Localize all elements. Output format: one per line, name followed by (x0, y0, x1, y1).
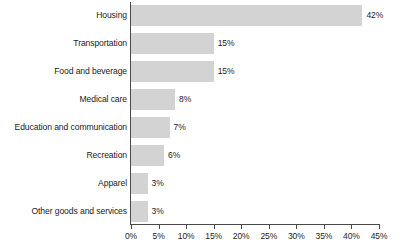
x-tick-label: 15% (205, 231, 222, 241)
x-tick-mark (241, 225, 242, 229)
bar-value-label: 8% (179, 89, 191, 110)
x-tick-mark (351, 225, 352, 229)
category-label: Apparel (98, 173, 127, 194)
bar[interactable] (131, 145, 164, 166)
category-label: Food and beverage (54, 61, 127, 82)
bar[interactable] (131, 5, 362, 26)
x-tick-mark (324, 225, 325, 229)
bar-value-label: 15% (218, 61, 235, 82)
x-tick-mark (269, 225, 270, 229)
bar[interactable] (131, 61, 214, 82)
x-tick-label: 35% (316, 231, 333, 241)
category-label: Other goods and services (31, 201, 127, 222)
bar-value-label: 3% (152, 173, 164, 194)
bar-row[interactable]: Education and communication7% (0, 117, 404, 138)
bar-row[interactable]: Housing42% (0, 5, 404, 26)
bar-row[interactable]: Medical care8% (0, 89, 404, 110)
bar-row[interactable]: Apparel3% (0, 173, 404, 194)
bar[interactable] (131, 33, 214, 54)
x-tick-label: 25% (260, 231, 277, 241)
bar[interactable] (131, 117, 170, 138)
x-tick-mark (131, 225, 132, 229)
x-tick-mark (214, 225, 215, 229)
x-tick-mark (296, 225, 297, 229)
plot-area: 0%5%10%15%20%25%30%35%40%45% Housing42%T… (0, 0, 404, 250)
x-tick-label: 10% (178, 231, 195, 241)
x-tick-mark (379, 225, 380, 229)
category-label: Medical care (79, 89, 127, 110)
bar-value-label: 7% (174, 117, 186, 138)
bar-value-label: 15% (218, 33, 235, 54)
category-label: Education and communication (15, 117, 127, 138)
bar[interactable] (131, 89, 175, 110)
x-tick-mark (186, 225, 187, 229)
x-tick-label: 45% (371, 231, 388, 241)
x-tick-label: 5% (153, 231, 165, 241)
bar-row[interactable]: Recreation6% (0, 145, 404, 166)
x-tick-label: 20% (233, 231, 250, 241)
x-tick-label: 30% (288, 231, 305, 241)
x-axis-line (130, 224, 380, 225)
x-tick-label: 0% (125, 231, 137, 241)
bar[interactable] (131, 173, 148, 194)
bar-row[interactable]: Other goods and services3% (0, 201, 404, 222)
x-tick-label: 40% (343, 231, 360, 241)
bar-value-label: 3% (152, 201, 164, 222)
bar-value-label: 42% (366, 5, 383, 26)
bar-value-label: 6% (168, 145, 180, 166)
bar[interactable] (131, 201, 148, 222)
category-label: Transportation (73, 33, 127, 54)
bar-row[interactable]: Food and beverage15% (0, 61, 404, 82)
x-tick-mark (159, 225, 160, 229)
bar-row[interactable]: Transportation15% (0, 33, 404, 54)
category-label: Housing (96, 5, 127, 26)
category-label: Recreation (86, 145, 127, 166)
bar-chart: 0%5%10%15%20%25%30%35%40%45% Housing42%T… (0, 0, 404, 250)
